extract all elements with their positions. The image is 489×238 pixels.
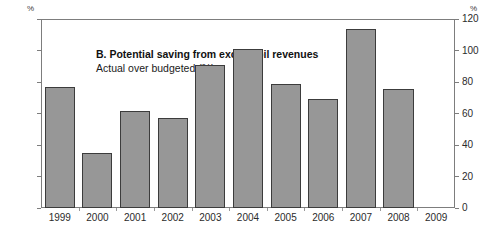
x-tick-mark xyxy=(116,208,117,211)
x-tick-label-2000: 2000 xyxy=(79,213,117,223)
y-tick-label-right: 120 xyxy=(462,14,479,24)
bar-2008 xyxy=(383,89,413,208)
y-tick-mark-right xyxy=(455,82,459,83)
x-tick-mark xyxy=(267,208,268,211)
bar-1999 xyxy=(45,87,75,208)
bar-2007 xyxy=(346,29,376,208)
y-tick-label-right: 80 xyxy=(462,77,473,87)
bar-2005 xyxy=(271,84,301,208)
y-tick-mark-left xyxy=(37,50,41,51)
bar-2003 xyxy=(195,65,225,208)
y-tick-label-right: 100 xyxy=(462,46,479,56)
y-tick-label-right: 60 xyxy=(462,109,473,119)
y-tick-mark-left xyxy=(37,145,41,146)
y-tick-mark-left xyxy=(37,176,41,177)
x-tick-label-2009: 2009 xyxy=(417,213,455,223)
x-tick-mark xyxy=(304,208,305,211)
y-tick-label-right: 0 xyxy=(462,203,468,213)
right-axis-unit-label: % xyxy=(470,5,477,13)
y-tick-mark-right xyxy=(455,208,459,209)
x-tick-label-2002: 2002 xyxy=(154,213,192,223)
left-axis-unit-label: % xyxy=(27,5,34,13)
bar-2006 xyxy=(308,99,338,208)
x-tick-label-1999: 1999 xyxy=(41,213,79,223)
bar-2004 xyxy=(233,49,263,208)
y-tick-label-right: 20 xyxy=(462,172,473,182)
chart-figure: % % B. Potential saving from excess oil … xyxy=(0,0,489,238)
chart-title: B. Potential saving from excess oil reve… xyxy=(96,48,318,60)
x-tick-label-2006: 2006 xyxy=(304,213,342,223)
y-tick-mark-left xyxy=(37,82,41,83)
bar-2001 xyxy=(120,111,150,208)
x-tick-label-2005: 2005 xyxy=(267,213,305,223)
x-tick-label-2004: 2004 xyxy=(229,213,267,223)
x-tick-mark xyxy=(154,208,155,211)
x-tick-mark xyxy=(342,208,343,211)
x-tick-label-2007: 2007 xyxy=(342,213,380,223)
y-tick-mark-left xyxy=(37,208,41,209)
bar-2000 xyxy=(82,153,112,208)
x-tick-mark xyxy=(229,208,230,211)
x-tick-label-2003: 2003 xyxy=(192,213,230,223)
bar-2002 xyxy=(158,118,188,208)
y-tick-mark-right xyxy=(455,176,459,177)
y-tick-label-right: 40 xyxy=(462,140,473,150)
y-tick-mark-right xyxy=(455,19,459,20)
y-tick-mark-right xyxy=(455,145,459,146)
x-tick-mark xyxy=(417,208,418,211)
y-tick-mark-left xyxy=(37,113,41,114)
y-tick-mark-right xyxy=(455,50,459,51)
x-tick-label-2008: 2008 xyxy=(380,213,418,223)
x-tick-mark xyxy=(79,208,80,211)
x-tick-mark xyxy=(192,208,193,211)
y-tick-mark-right xyxy=(455,113,459,114)
x-tick-mark xyxy=(380,208,381,211)
y-tick-mark-left xyxy=(37,19,41,20)
x-tick-label-2001: 2001 xyxy=(116,213,154,223)
